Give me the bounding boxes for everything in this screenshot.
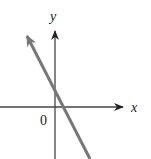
coordinate-graph: y x 0 <box>0 0 151 159</box>
y-axis-label: y <box>48 9 57 24</box>
x-axis-label: x <box>130 100 138 115</box>
origin-label: 0 <box>40 113 47 128</box>
graph-line <box>27 36 90 159</box>
